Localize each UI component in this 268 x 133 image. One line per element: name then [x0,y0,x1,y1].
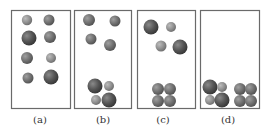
panel-label-b: (b) [96,114,110,125]
particle-dark [203,80,218,95]
particle-light [166,22,176,32]
particle-mid [23,73,34,84]
panel-d [201,11,260,109]
particle-light [217,82,227,92]
panel-label-d: (d) [221,114,235,125]
particle-light [156,41,167,52]
particle-mid [164,95,176,107]
panel-a [12,11,71,109]
particle-dark [173,40,188,55]
particle-mid [110,16,121,27]
particle-dark [22,31,37,46]
panel-c [138,11,196,109]
particle-light [22,15,32,25]
particle-mid [21,52,33,64]
particle-mid [44,31,56,43]
container-box [12,11,71,109]
particle-mid [152,95,164,107]
particle-mid [86,34,97,45]
particle-mid [245,83,257,95]
particle-light [46,53,56,63]
particle-mid [152,83,164,95]
particle-dark [44,70,59,85]
panel-label-a: (a) [33,114,47,125]
container-box [75,11,132,109]
particle-dark [102,93,117,108]
particle-mid [164,83,176,95]
particle-dark [88,79,103,94]
particle-light [91,95,101,105]
particle-mid [245,95,257,107]
particle-mid [83,14,95,26]
particle-mid [234,95,246,107]
particle-light [104,81,114,91]
particle-dark [215,93,230,108]
particle-mid [104,39,116,51]
particle-light [205,95,215,105]
panel-b [75,11,132,109]
particle-mid [234,83,246,95]
panel-label-c: (c) [156,114,169,125]
particle-dark [144,20,159,35]
particle-mid [44,15,55,26]
